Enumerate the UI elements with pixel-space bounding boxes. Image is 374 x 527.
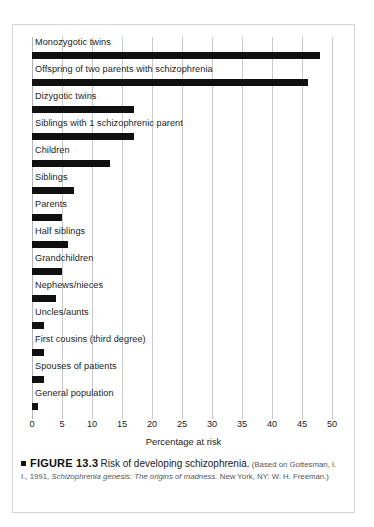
figure-number: FIGURE 13.3 [30, 457, 98, 469]
bar [32, 268, 62, 275]
bar [32, 106, 134, 113]
chart-row: Grandchildren [32, 253, 336, 280]
bar [32, 349, 44, 356]
figure-caption: FIGURE 13.3 Risk of developing schizophr… [21, 457, 344, 484]
chart-row: Half siblings [32, 226, 336, 253]
chart-row: Uncles/aunts [32, 307, 336, 334]
black-square-icon [21, 461, 26, 466]
bar [32, 52, 320, 59]
bar-category-label: Siblings [35, 172, 68, 183]
x-tick-label-50: 50 [327, 419, 337, 430]
bar-category-label: Parents [35, 199, 67, 210]
bar-category-label: Children [35, 145, 70, 156]
x-tick-label-30: 30 [207, 419, 217, 430]
chart-row: Siblings with 1 schizophrenic parent [32, 118, 336, 145]
chart-row: General population [32, 388, 336, 415]
figure-source-suffix: New York, NY: W. H. Freeman.) [220, 472, 329, 481]
x-tick-label-40: 40 [267, 419, 277, 430]
chart-row: Nephews/nieces [32, 280, 336, 307]
figure-title: Risk of developing schizophrenia. [101, 458, 250, 469]
bar-category-label: Dizygotic twins [35, 91, 97, 102]
chart-x-axis-title: Percentage at risk [13, 436, 354, 447]
chart-row: Spouses of patients [32, 361, 336, 388]
bar-category-label: Spouses of patients [35, 361, 117, 372]
bar [32, 295, 56, 302]
bar [32, 403, 38, 410]
chart-row: Siblings [32, 172, 336, 199]
bar-category-label: Nephews/nieces [35, 280, 103, 291]
chart-row: Monozygotic twins [32, 37, 336, 64]
bar [32, 214, 62, 221]
figure-source-italic: Schizophrenia genesis: The origins of ma… [51, 472, 217, 481]
x-tick-label-45: 45 [297, 419, 307, 430]
bar-category-label: Offspring of two parents with schizophre… [35, 64, 213, 75]
bar-category-label: Monozygotic twins [35, 37, 111, 48]
bar [32, 322, 44, 329]
bar [32, 241, 68, 248]
bar [32, 79, 308, 86]
figure-card: Monozygotic twinsOffspring of two parent… [12, 24, 355, 513]
chart-row: Offspring of two parents with schizophre… [32, 64, 336, 91]
bar-category-label: General population [35, 388, 114, 399]
x-tick-label-35: 35 [237, 419, 247, 430]
x-tick-label-0: 0 [29, 419, 34, 430]
x-tick-label-15: 15 [117, 419, 127, 430]
chart-row: First cousins (third degree) [32, 334, 336, 361]
bar [32, 160, 110, 167]
x-tick-label-20: 20 [147, 419, 157, 430]
chart-row: Children [32, 145, 336, 172]
bar [32, 133, 134, 140]
chart-bars: Monozygotic twinsOffspring of two parent… [32, 37, 336, 419]
x-tick-label-10: 10 [87, 419, 97, 430]
chart-row: Parents [32, 199, 336, 226]
bar [32, 376, 44, 383]
bar-category-label: Grandchildren [35, 253, 93, 264]
chart-plot-area: Monozygotic twinsOffspring of two parent… [32, 37, 336, 419]
bar [32, 187, 74, 194]
chart-x-axis: 05101520253035404550 [32, 419, 336, 435]
bar-category-label: First cousins (third degree) [35, 334, 146, 345]
bar-category-label: Siblings with 1 schizophrenic parent [35, 118, 183, 129]
chart-row: Dizygotic twins [32, 91, 336, 118]
bar-category-label: Uncles/aunts [35, 307, 89, 318]
x-tick-label-5: 5 [59, 419, 64, 430]
bar-category-label: Half siblings [35, 226, 85, 237]
x-tick-label-25: 25 [177, 419, 187, 430]
